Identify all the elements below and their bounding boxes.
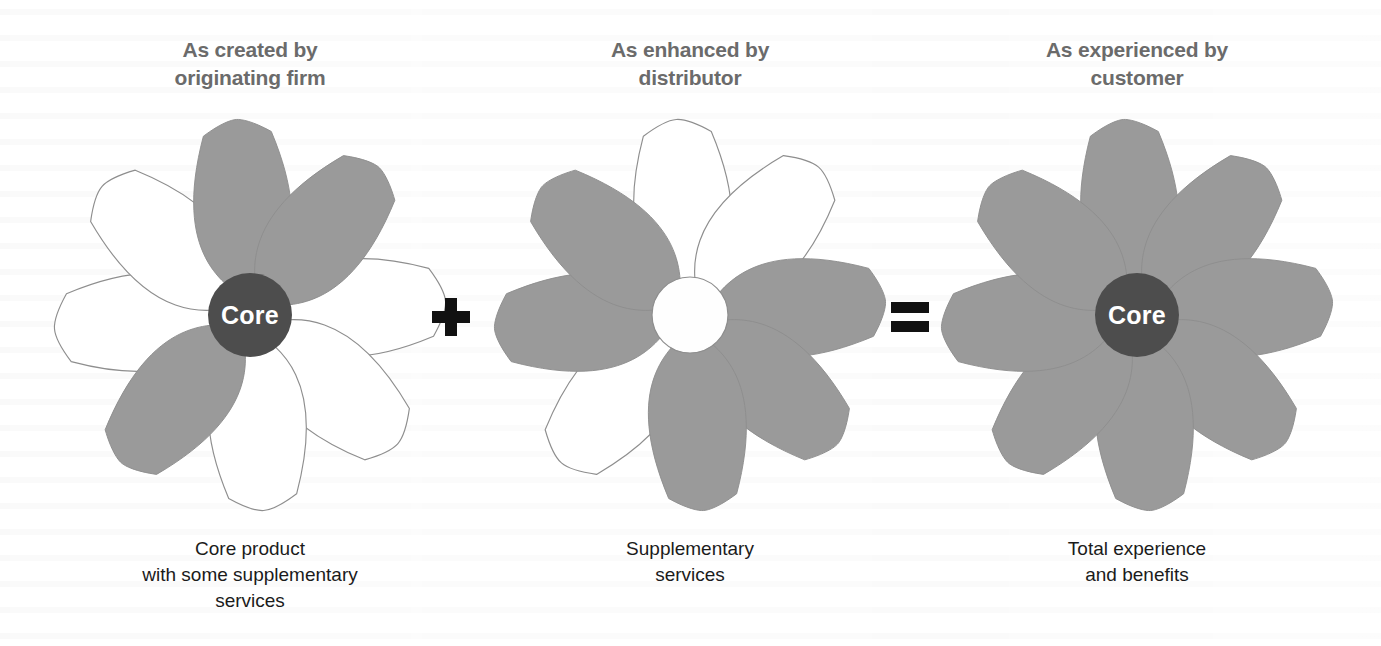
panel-customer: As experienced by customer Core Total ex… <box>907 0 1367 646</box>
panel-caption-distributor: Supplementary services <box>460 536 920 588</box>
flower-customer: Core <box>907 95 1367 535</box>
flower-svg-distributor <box>480 95 900 525</box>
panel-title-customer: As experienced by customer <box>907 36 1367 92</box>
flower-distributor <box>460 95 920 535</box>
panel-caption-customer: Total experience and benefits <box>907 536 1367 588</box>
panel-title-distributor: As enhanced by distributor <box>460 36 920 92</box>
flower-originating-firm: Core <box>20 95 480 535</box>
panel-distributor: As enhanced by distributor Supplementary… <box>460 0 920 646</box>
panel-caption-originating-firm: Core product with some supplementary ser… <box>20 536 480 615</box>
core-circle[interactable] <box>652 277 728 353</box>
core-label: Core <box>1108 301 1166 329</box>
panel-originating-firm: As created by originating firm Core Core… <box>20 0 480 646</box>
flower-of-service-diagram: As created by originating firm Core Core… <box>0 0 1381 646</box>
panel-title-originating-firm: As created by originating firm <box>20 36 480 92</box>
flower-svg-originating-firm: Core <box>40 95 460 525</box>
flower-svg-customer: Core <box>927 95 1347 525</box>
core-label: Core <box>221 301 279 329</box>
